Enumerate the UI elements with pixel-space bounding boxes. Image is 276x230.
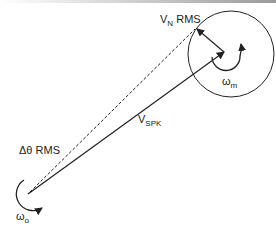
delta-theta-rms-label: Δθ RMS: [19, 145, 60, 156]
vn-vector: [197, 29, 224, 52]
vn-rms-label: VN RMS: [160, 14, 201, 28]
vspk-vector: [28, 52, 224, 194]
omega-m-label: ωm: [222, 76, 237, 90]
omega-o-label: ωo: [16, 211, 29, 225]
vspk-label: VSPK: [138, 114, 161, 128]
resultant-dashed-vector: [30, 29, 195, 192]
